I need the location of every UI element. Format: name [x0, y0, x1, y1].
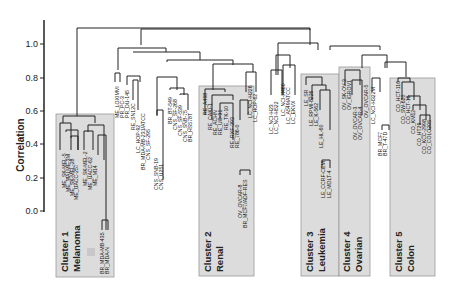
leaf-label: CNS_U251 — [158, 164, 164, 190]
leaf-label: LC_NCI-H322M — [370, 87, 376, 124]
leaf-label: BR_T-47D — [382, 132, 388, 156]
leaf-label: LC_NCI-H522 — [273, 101, 279, 134]
y-tick-2: 0.4 — [25, 139, 38, 149]
leaf-label: LE_HL-60 — [318, 125, 324, 148]
cluster-boxes — [56, 67, 435, 277]
cluster-4-name: Ovarian — [353, 236, 364, 272]
leaf-label: BR_MCF7/ADF-RES — [242, 179, 248, 228]
leaf-label: LC_HOP-62 — [252, 94, 258, 122]
cluster-4-number: Cluster 4 — [341, 231, 352, 272]
leaf-label: LC_EKVX — [290, 100, 296, 124]
dendrogram: 0.0 0.2 0.4 0.6 0.8 1.0 Correlation — [0, 0, 453, 288]
leaf-label: LE_K-562 — [313, 103, 319, 126]
y-tick-5: 1.0 — [25, 39, 38, 49]
leaf-label: OV_IGROV1 — [346, 80, 352, 110]
cluster-2-name: Renal — [214, 246, 225, 272]
y-tick-0: 0.0 — [25, 206, 38, 216]
leaf-label: CO_COLO205 — [426, 120, 432, 154]
y-axis: 0.0 0.2 0.4 0.6 0.8 1.0 Correlation — [15, 20, 44, 216]
y-tick-4: 0.8 — [25, 73, 38, 83]
leaf-label: ME_UACC-257 — [73, 164, 79, 200]
leaf-label: OV_OVCAR-5 — [363, 84, 369, 118]
leaf-label: BR_HS578T — [187, 112, 193, 142]
cluster-1-number: Cluster 1 — [59, 231, 70, 272]
leaf-label: ME_M14 — [92, 165, 98, 186]
cluster-2-number: Cluster 2 — [202, 231, 213, 272]
cluster-5-number: Cluster 5 — [393, 231, 404, 272]
y-tick-3: 0.6 — [25, 106, 38, 116]
cluster-5-name: Colon — [405, 245, 416, 272]
cluster-1-highlight — [87, 248, 95, 256]
leaf-label: LE_MOLT-4 — [326, 170, 332, 198]
leaf-label: CNS_SF-295 — [145, 129, 151, 160]
cluster-1-name: Melanoma — [71, 225, 82, 272]
leaf-label: RE_786-0 — [234, 125, 240, 148]
leaf-label: BR_MDA-N — [104, 247, 110, 274]
cluster-3-number: Cluster 3 — [304, 231, 315, 272]
y-tick-1: 0.2 — [25, 173, 38, 183]
y-axis-label: Correlation — [15, 118, 26, 171]
cluster-3-name: Leukemia — [316, 227, 327, 272]
